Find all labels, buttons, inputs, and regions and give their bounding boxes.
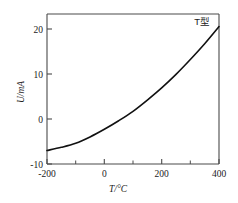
y-tick-label: 10	[34, 70, 44, 80]
y-tick-label: 20	[34, 25, 44, 35]
chart-canvas: -200 0 200 400 -10 0 10 20 T/°C U/mA T型	[0, 0, 238, 203]
plot-frame	[47, 14, 219, 164]
x-tick-label: -200	[38, 169, 56, 179]
x-axis-title: T/°C	[109, 184, 128, 194]
y-tick-label: 0	[38, 115, 43, 125]
x-tick-label: 400	[212, 169, 227, 179]
x-tick-label: 0	[102, 169, 107, 179]
y-tick-label: -10	[30, 160, 43, 170]
chart-figure: -200 0 200 400 -10 0 10 20 T/°C U/mA T型	[0, 0, 238, 203]
y-major-ticks	[47, 29, 52, 164]
y-axis-title: U/mA	[16, 81, 26, 103]
x-tick-label: 200	[155, 169, 170, 179]
series-line-t-type	[47, 27, 219, 151]
series-annotation-label: T型	[194, 16, 210, 27]
